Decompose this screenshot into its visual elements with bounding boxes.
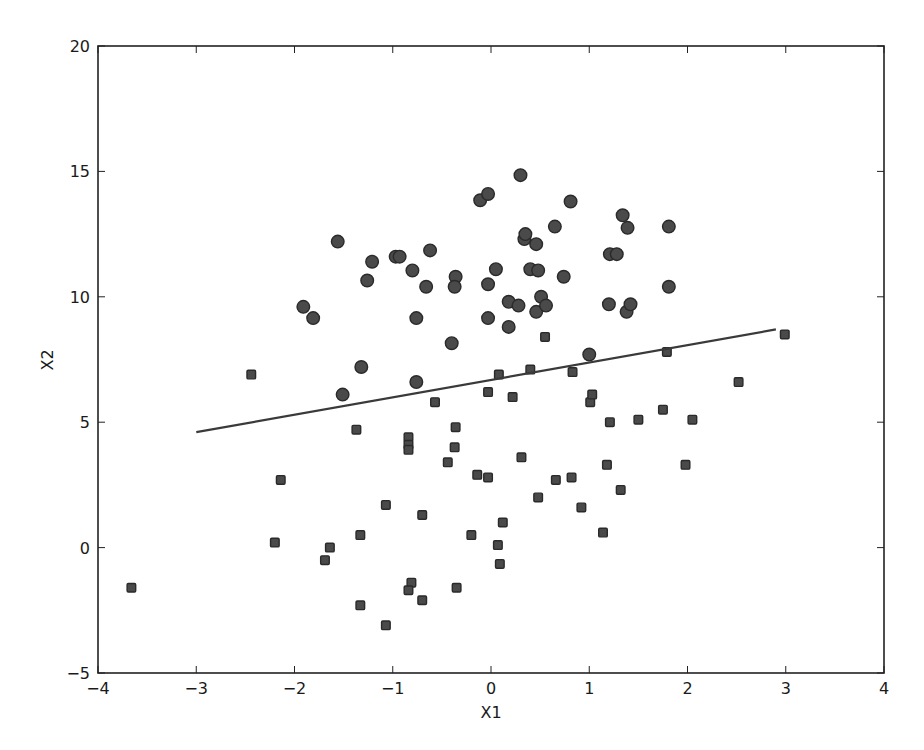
- circle-marker: [603, 298, 616, 311]
- circle-marker: [336, 388, 349, 401]
- circle-marker: [610, 248, 623, 261]
- square-marker: [484, 388, 493, 397]
- square-marker: [494, 541, 503, 550]
- square-marker: [517, 453, 526, 462]
- y-tick-label: 20: [70, 37, 90, 56]
- square-marker: [467, 531, 476, 540]
- circle-marker: [482, 312, 495, 325]
- square-marker: [382, 501, 391, 510]
- x-tick-label: 3: [781, 679, 791, 698]
- square-marker: [452, 583, 461, 592]
- circle-marker: [530, 238, 543, 251]
- square-marker: [443, 458, 452, 467]
- circle-marker: [514, 169, 527, 182]
- y-tick-label: −5: [66, 664, 90, 683]
- square-marker: [418, 596, 427, 605]
- x-tick-label: 1: [584, 679, 594, 698]
- circle-marker: [502, 321, 515, 334]
- square-marker: [588, 390, 597, 399]
- circle-marker: [297, 301, 310, 314]
- square-marker: [496, 560, 505, 569]
- square-marker: [484, 473, 493, 482]
- square-marker: [352, 425, 361, 434]
- square-marker: [382, 621, 391, 630]
- square-marker: [780, 330, 789, 339]
- square-marker: [498, 518, 507, 527]
- x-axis-label: X1: [480, 703, 501, 722]
- square-marker: [356, 531, 365, 540]
- circle-marker: [307, 312, 320, 325]
- square-marker: [606, 418, 615, 427]
- square-marker: [508, 393, 517, 402]
- square-marker: [276, 476, 285, 485]
- x-tick-label: 0: [486, 679, 496, 698]
- scatter-chart: −4−3−2−101234 −505101520 X1 X2: [0, 0, 924, 750]
- square-marker: [127, 583, 136, 592]
- square-marker: [688, 415, 697, 424]
- circle-marker: [366, 255, 379, 268]
- x-tick-label: −2: [283, 679, 307, 698]
- circle-marker: [663, 280, 676, 293]
- circle-marker: [445, 337, 458, 350]
- circle-marker: [549, 220, 562, 233]
- square-marker: [271, 538, 280, 547]
- circle-marker: [393, 250, 406, 263]
- x-tick-label: −1: [381, 679, 405, 698]
- circle-marker: [331, 235, 344, 248]
- square-marker: [659, 405, 668, 414]
- square-marker: [418, 511, 427, 520]
- square-marker: [541, 333, 550, 342]
- circle-marker: [355, 361, 368, 374]
- circle-marker: [420, 280, 433, 293]
- circle-marker: [663, 220, 676, 233]
- square-marker: [321, 556, 330, 565]
- square-marker: [473, 471, 482, 480]
- x-tick-label: 2: [682, 679, 692, 698]
- square-marker: [634, 415, 643, 424]
- square-marker: [356, 601, 365, 610]
- square-marker: [567, 473, 576, 482]
- square-marker: [404, 586, 413, 595]
- square-marker: [451, 423, 460, 432]
- square-marker: [326, 543, 335, 552]
- square-marker: [450, 443, 459, 452]
- square-marker: [577, 503, 586, 512]
- square-marker: [599, 528, 608, 537]
- circle-marker: [621, 222, 634, 235]
- circle-marker: [410, 312, 423, 325]
- square-marker: [534, 493, 543, 502]
- circle-marker: [482, 278, 495, 291]
- y-tick-label: 10: [70, 288, 90, 307]
- square-marker: [681, 461, 690, 470]
- circle-marker: [512, 299, 525, 312]
- y-tick-label: 0: [80, 539, 90, 558]
- y-tick-labels: −505101520: [66, 37, 90, 683]
- x-tick-labels: −4−3−2−101234: [86, 679, 889, 698]
- plot-area: [98, 46, 884, 673]
- y-tick-label: 5: [80, 413, 90, 432]
- circle-marker: [540, 299, 553, 312]
- square-marker: [552, 476, 561, 485]
- circle-marker: [424, 244, 437, 257]
- circle-marker: [448, 280, 461, 293]
- circle-marker: [532, 264, 545, 277]
- x-tick-label: −3: [184, 679, 208, 698]
- square-marker: [431, 398, 440, 407]
- circle-marker: [406, 264, 419, 277]
- y-tick-label: 15: [70, 162, 90, 181]
- circle-marker: [564, 195, 577, 208]
- circle-marker: [490, 263, 503, 276]
- square-marker: [404, 445, 413, 454]
- y-axis-label: X2: [38, 349, 57, 370]
- square-marker: [568, 368, 577, 377]
- x-tick-label: 4: [879, 679, 889, 698]
- circle-marker: [410, 376, 423, 389]
- circle-marker: [361, 274, 374, 287]
- square-marker: [603, 461, 612, 470]
- circle-marker: [616, 209, 629, 222]
- square-marker: [247, 370, 256, 379]
- circle-marker: [557, 270, 570, 283]
- circle-marker: [519, 228, 532, 241]
- circle-marker: [583, 348, 596, 361]
- square-marker: [734, 378, 743, 387]
